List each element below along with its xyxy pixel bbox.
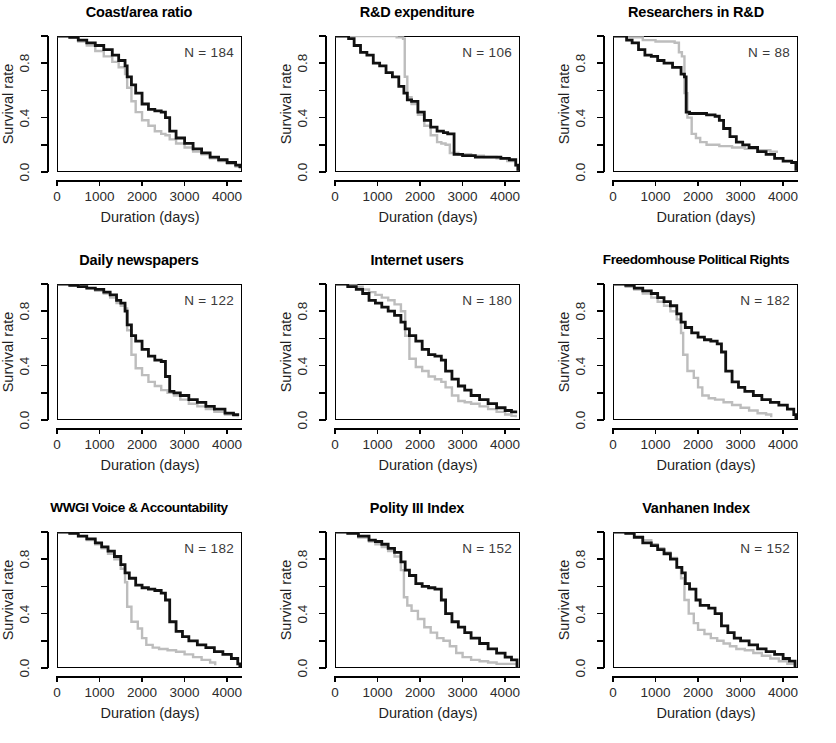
survival-panel: R&D expenditureN = 106010002000300040000…: [278, 0, 556, 248]
x-axis-tick-label: 1000: [362, 685, 392, 700]
y-axis-title: Survival rate: [0, 312, 16, 393]
y-axis-tick: [41, 365, 48, 367]
x-axis-tick: [419, 180, 421, 186]
y-axis-line: [325, 532, 327, 668]
x-axis-tick: [504, 180, 506, 186]
x-axis-line: [335, 180, 520, 182]
y-axis-tick: [41, 640, 48, 642]
y-axis-tick: [319, 613, 326, 615]
y-axis-line: [603, 532, 605, 668]
x-axis-tick: [334, 428, 336, 434]
y-axis-tick: [41, 90, 48, 92]
plot-area: N = 88: [613, 36, 798, 172]
x-axis-tick-label: 4000: [212, 685, 242, 700]
x-axis-title: Duration (days): [278, 705, 556, 721]
x-axis-tick: [782, 180, 784, 186]
y-axis-tick-label: 0.0: [295, 659, 310, 678]
y-axis-tick: [597, 171, 604, 173]
x-axis-tick-label: 0: [53, 437, 61, 452]
x-axis-line: [57, 180, 242, 182]
y-axis-tick-label: 0.0: [573, 659, 588, 678]
y-axis-tick-label: 0.4: [17, 356, 32, 375]
x-axis-tick-label: 4000: [490, 685, 520, 700]
y-axis-title: Survival rate: [556, 312, 572, 393]
y-axis-tick: [597, 117, 604, 119]
x-axis-tick: [141, 428, 143, 434]
y-axis-tick: [41, 558, 48, 560]
x-axis-tick-label: 1000: [84, 437, 114, 452]
y-axis-tick: [41, 171, 48, 173]
sample-size-label: N = 152: [740, 541, 790, 556]
x-axis-tick: [419, 428, 421, 434]
y-axis-line: [325, 36, 327, 172]
plot-area: N = 182: [57, 532, 242, 668]
x-axis-tick: [504, 676, 506, 682]
x-axis-tick-label: 0: [53, 685, 61, 700]
x-axis-tick-label: 3000: [448, 189, 478, 204]
sample-size-label: N = 88: [748, 45, 790, 60]
y-axis-tick: [597, 283, 604, 285]
x-axis-tick-label: 2000: [127, 189, 157, 204]
y-axis-tick-label: 0.0: [573, 163, 588, 182]
x-axis-tick: [377, 428, 379, 434]
x-axis-line: [613, 676, 798, 678]
x-axis-tick-label: 0: [609, 437, 617, 452]
y-axis-tick: [319, 62, 326, 64]
x-axis-tick-label: 3000: [726, 437, 756, 452]
x-axis-title: Duration (days): [0, 705, 278, 721]
y-axis-tick-label: 0.0: [295, 163, 310, 182]
panel-title: Daily newspapers: [0, 252, 278, 268]
x-axis-tick: [612, 180, 614, 186]
x-axis-tick: [655, 180, 657, 186]
x-axis-tick-label: 3000: [170, 189, 200, 204]
y-axis-tick-label: 0.8: [573, 550, 588, 569]
sample-size-label: N = 152: [462, 541, 512, 556]
y-axis-title: Survival rate: [556, 560, 572, 641]
x-axis-title: Duration (days): [0, 457, 278, 473]
x-axis-line: [335, 676, 520, 678]
x-axis-line: [613, 180, 798, 182]
sample-size-label: N = 180: [462, 293, 512, 308]
y-axis-tick: [597, 613, 604, 615]
panel-title: Researchers in R&D: [556, 4, 836, 20]
y-axis-tick: [597, 338, 604, 340]
x-axis-tick-label: 2000: [683, 437, 713, 452]
x-axis-tick: [56, 428, 58, 434]
y-axis-tick: [41, 667, 48, 669]
y-axis-tick-label: 0.8: [17, 54, 32, 73]
y-axis-tick: [319, 338, 326, 340]
x-axis-tick: [782, 428, 784, 434]
x-axis-tick: [740, 180, 742, 186]
x-axis-tick: [419, 676, 421, 682]
survival-panel: Vanhanen IndexN = 152010002000300040000.…: [556, 496, 836, 743]
y-axis-title: Survival rate: [0, 560, 16, 641]
x-axis-tick: [99, 676, 101, 682]
y-axis-tick: [319, 531, 326, 533]
y-axis-title: Survival rate: [278, 312, 294, 393]
x-axis-tick: [184, 180, 186, 186]
x-axis-tick: [141, 676, 143, 682]
y-axis-tick-label: 0.4: [573, 108, 588, 127]
x-axis-tick: [462, 676, 464, 682]
y-axis-tick: [597, 392, 604, 394]
x-axis-tick-label: 3000: [170, 437, 200, 452]
x-axis-tick-label: 2000: [405, 189, 435, 204]
y-axis-tick-label: 0.8: [295, 302, 310, 321]
x-axis-tick: [697, 676, 699, 682]
x-axis-tick-label: 2000: [127, 685, 157, 700]
x-axis-tick-label: 3000: [448, 685, 478, 700]
panel-title: Freedomhouse Political Rights: [556, 252, 836, 267]
y-axis-tick: [41, 144, 48, 146]
y-axis-tick: [41, 117, 48, 119]
x-axis-tick-label: 2000: [683, 189, 713, 204]
y-axis-tick-label: 0.0: [17, 659, 32, 678]
y-axis-tick: [319, 640, 326, 642]
plot-area: N = 180: [335, 284, 520, 420]
x-axis-tick-label: 3000: [448, 437, 478, 452]
y-axis-tick: [319, 171, 326, 173]
plot-area: N = 152: [613, 532, 798, 668]
y-axis-tick: [319, 144, 326, 146]
panel-title: Vanhanen Index: [556, 500, 836, 516]
x-axis-tick-label: 4000: [768, 437, 798, 452]
x-axis-tick: [56, 180, 58, 186]
